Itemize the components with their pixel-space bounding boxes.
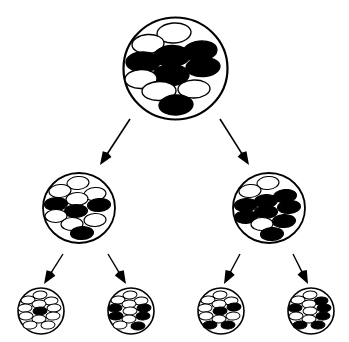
cell-white-gen3-a-10: [23, 321, 37, 330]
arrow-shaft: [220, 119, 243, 156]
population-gen3-c[interactable]: [198, 288, 244, 334]
arrow-head: [238, 151, 249, 165]
cell-white-gen3-a-11: [41, 321, 55, 330]
cell-black-gen2-left-6: [64, 204, 87, 218]
cell-white-gen3-a-8: [46, 312, 60, 321]
arrow-head: [44, 270, 55, 284]
cell-white-gen3-d-7: [289, 312, 303, 320]
cell-black-gen3-c-11: [221, 321, 235, 330]
arrow-shaft: [108, 254, 120, 275]
cell-white-gen3-c-7: [199, 312, 213, 320]
population-gen3-b[interactable]: [108, 288, 154, 334]
cell-black-gen3-b-8: [136, 312, 150, 321]
arrow-head: [115, 270, 126, 284]
arrow-left-to-a: [44, 254, 63, 284]
arrow-left-to-b: [108, 254, 126, 284]
arrow-right-to-c: [224, 254, 240, 284]
population-gen1-root[interactable]: [124, 18, 228, 120]
cell-black-gen3-b-7: [109, 312, 123, 320]
cell-black-gen3-d-10: [293, 321, 307, 330]
cell-white-gen3-c-4: [198, 304, 212, 313]
cell-black-gen3-d-11: [311, 321, 325, 330]
arrow-right-to-d: [293, 254, 308, 284]
cell-black-gen3-c-6: [213, 307, 227, 315]
cell-black-gen3-b-4: [108, 304, 122, 313]
cell-black-gen3-c-10: [203, 321, 217, 330]
cell-black-gen3-d-4: [288, 304, 302, 313]
population-gen3-d[interactable]: [288, 288, 334, 334]
arrow-root-to-left: [100, 119, 130, 165]
cell-white-gen3-b-10: [113, 321, 127, 330]
population-gen2-right[interactable]: [233, 173, 305, 243]
cell-white-gen3-c-8: [226, 312, 240, 321]
arrow-head: [298, 270, 308, 284]
cell-black-gen3-d-8: [316, 312, 330, 321]
population-division-diagram: [0, 0, 349, 342]
cell-white-gen3-a-7: [19, 312, 33, 320]
arrow-shaft: [50, 254, 63, 275]
arrow-shaft: [106, 119, 130, 156]
population-gen3-a[interactable]: [18, 288, 64, 334]
cell-black-gen3-a-6: [33, 307, 47, 315]
cell-white-gen3-b-6: [123, 307, 137, 315]
cell-white-gen3-a-4: [18, 304, 32, 313]
cell-black-gen3-b-11: [131, 322, 145, 331]
diagram-canvas: [0, 0, 349, 342]
arrow-head: [224, 270, 235, 284]
arrow-head: [100, 151, 111, 165]
arrow-root-to-right: [220, 119, 249, 165]
populations-layer: [18, 18, 334, 335]
population-gen2-left[interactable]: [43, 173, 115, 243]
cell-white-gen3-d-6: [303, 307, 317, 315]
